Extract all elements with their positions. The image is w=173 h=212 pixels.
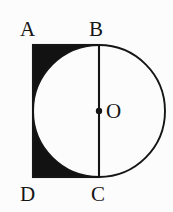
geometry-figure: A B D C O: [0, 0, 173, 212]
vertex-label-a: A: [20, 19, 35, 40]
vertex-label-c: C: [91, 184, 105, 205]
center-point-o: [96, 108, 102, 114]
shaded-region: [33, 45, 99, 177]
center-label-o: O: [106, 101, 121, 122]
vertex-label-b: B: [89, 19, 103, 40]
vertex-label-d: D: [20, 184, 35, 205]
